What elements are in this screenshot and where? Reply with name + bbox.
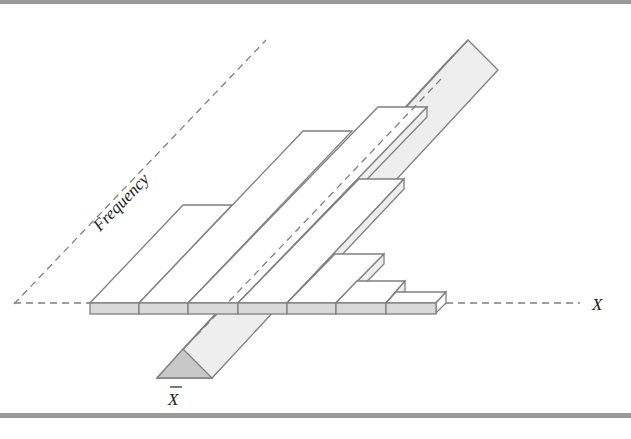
bottom-rule: [0, 413, 631, 418]
x-axis-label: X: [591, 295, 603, 314]
mean-label: X: [167, 390, 179, 409]
histogram-bars: [90, 107, 446, 313]
histogram-diagram: Frequency X X: [0, 0, 631, 439]
base-strip: [90, 303, 436, 314]
frequency-axis-label: Frequency: [89, 169, 154, 235]
